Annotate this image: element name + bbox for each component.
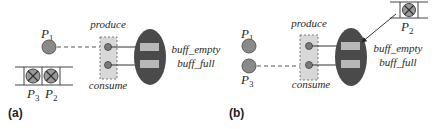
queue-label-p2: P2: [44, 86, 57, 103]
entry-consume-label: consume: [292, 78, 331, 90]
condition-slot: [140, 60, 159, 68]
process-circle-icon: [242, 59, 256, 73]
process-circle-icon: [42, 40, 56, 54]
monitor: [335, 28, 367, 86]
entry-dot-icon: [306, 62, 313, 69]
entry-procedures: produce consume: [290, 17, 337, 90]
condition-queue: P3 P2: [15, 67, 73, 103]
process-p1: P1: [240, 26, 256, 53]
condition-slot: [140, 43, 159, 51]
monitor-ellipse: [134, 29, 166, 85]
monitor-diagram: P1 P3 P2 produce: [0, 0, 440, 129]
monitor: [134, 29, 166, 85]
condition-queue: P2: [390, 2, 428, 36]
queue-label-p3: P3: [26, 86, 40, 103]
condition-label-full: buff_full: [379, 56, 416, 68]
entry-dot-icon: [306, 43, 313, 50]
panel-caption: (a): [8, 106, 23, 120]
process-p1: P1: [40, 26, 56, 54]
process-circle-icon: [242, 39, 256, 53]
blocked-process-p2: [403, 4, 416, 17]
panel-b: P1 P3 produce consume: [229, 2, 428, 120]
condition-label-full: buff_full: [177, 57, 214, 69]
entry-produce-label: produce: [89, 18, 126, 30]
queue-label-p2: P2: [400, 19, 413, 36]
entry-box: [300, 35, 318, 80]
condition-label-empty: buff_empty: [374, 42, 423, 54]
panel-a: P1 P3 P2 produce: [8, 18, 221, 120]
blocked-process-p3: [26, 69, 40, 83]
monitor-ellipse: [335, 28, 367, 86]
entry-consume-label: consume: [89, 79, 128, 91]
entry-dot-icon: [105, 62, 112, 69]
signal-arrow: [362, 14, 396, 42]
condition-slot: [341, 60, 360, 68]
blocked-process-p2: [44, 69, 58, 83]
panel-caption: (b): [229, 106, 244, 120]
entry-procedures: produce consume: [89, 18, 136, 91]
process-p3-label: P3: [240, 72, 254, 89]
process-p3: P3: [240, 59, 256, 89]
entry-dot-icon: [105, 44, 112, 51]
entry-produce-label: produce: [290, 17, 327, 29]
condition-label-empty: buff_empty: [172, 43, 221, 55]
condition-slot: [341, 42, 360, 50]
